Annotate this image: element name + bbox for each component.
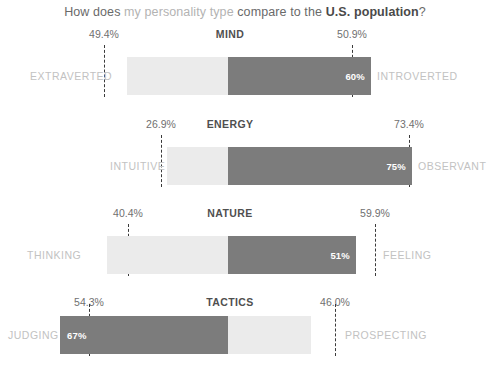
bar-value-energy: 75% xyxy=(386,161,406,172)
reference-line-right-tactics xyxy=(335,304,336,356)
title-part-us-pop: U.S. population xyxy=(326,5,419,19)
title-part-mark: ? xyxy=(419,5,426,19)
section-title-text: ENERGY xyxy=(207,118,254,130)
trait-label-judging: JUDGING xyxy=(8,329,59,341)
tick-label-left-energy: 26.9% xyxy=(146,118,176,130)
trait-bar-mind: 60% xyxy=(127,57,371,95)
section-title-text: TACTICS xyxy=(206,296,254,308)
tick-label-left-nature: 40.4% xyxy=(113,207,143,219)
title-part-compare: compare to the xyxy=(234,5,326,19)
trait-label-observant: OBSERVANT xyxy=(418,160,486,172)
bar-value-tactics: 67% xyxy=(67,330,87,341)
bar-value-nature: 51% xyxy=(330,250,350,261)
reference-line-right-nature xyxy=(375,224,376,276)
bar-segment-intuitive xyxy=(167,147,228,185)
trait-label-thinking: THINKING xyxy=(27,249,81,261)
section-title-text: MIND xyxy=(216,28,244,40)
trait-bar-energy: 75% xyxy=(167,147,412,185)
section-title-nature: NATURE xyxy=(0,207,490,219)
section-title-mind: MIND xyxy=(0,28,490,40)
bar-value-mind: 60% xyxy=(345,71,365,82)
tick-label-right-nature: 59.9% xyxy=(360,207,390,219)
tick-label-right-energy: 73.4% xyxy=(394,118,424,130)
section-title-text: NATURE xyxy=(207,207,252,219)
tick-label-right-mind: 50.9% xyxy=(337,28,367,40)
bar-segment-extraverted xyxy=(127,57,228,95)
trait-bar-tactics: 67% xyxy=(60,316,311,354)
title-part-my-type: my personality type xyxy=(124,5,234,19)
page-title: How does my personality type compare to … xyxy=(0,5,490,19)
tick-label-left-mind: 49.4% xyxy=(89,28,119,40)
bar-segment-prospecting xyxy=(228,316,311,354)
bar-segment-observant xyxy=(228,147,412,185)
title-part-question: How does xyxy=(64,5,124,19)
trait-bar-nature: 51% xyxy=(107,236,356,274)
trait-label-introverted: INTROVERTED xyxy=(377,70,458,82)
trait-label-intuitive: INTUITIVE xyxy=(110,160,165,172)
trait-label-prospecting: PROSPECTING xyxy=(345,329,427,341)
trait-label-extraverted: EXTRAVERTED xyxy=(30,70,112,82)
trait-label-feeling: FEELING xyxy=(383,249,431,261)
bar-segment-thinking xyxy=(107,236,228,274)
